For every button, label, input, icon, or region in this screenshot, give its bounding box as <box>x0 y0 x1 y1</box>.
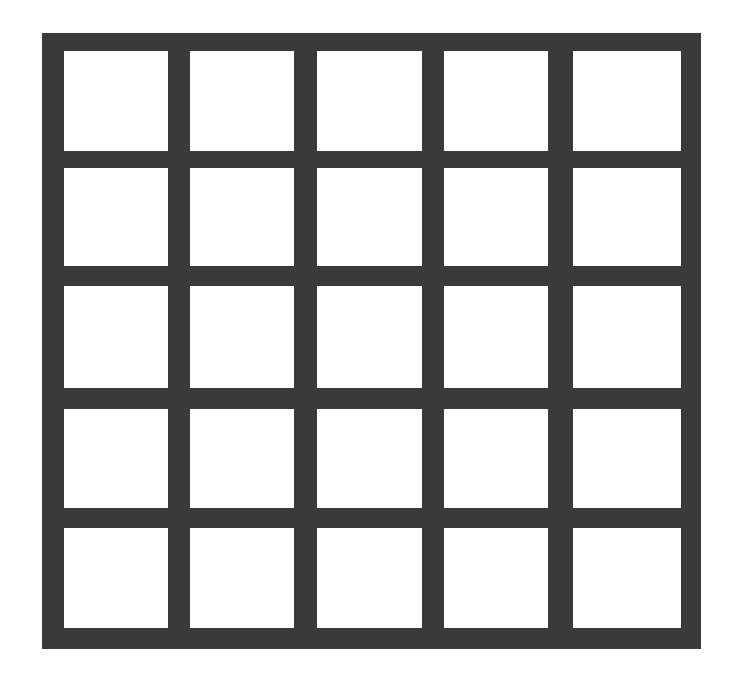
grid-cell-r4-c1 <box>64 409 168 508</box>
grid-cell-r1-c1 <box>64 51 168 151</box>
grid-cell-r5-c2 <box>190 528 294 628</box>
grid-cell-r1-c5 <box>573 51 681 151</box>
grid-cell-r5-c3 <box>317 528 422 628</box>
grid-cell-r4-c2 <box>190 409 294 508</box>
grid-cell-r3-c4 <box>444 286 548 388</box>
grid-cell-r1-c4 <box>444 51 548 151</box>
grid-cell-r3-c1 <box>64 286 168 388</box>
grid-cell-r2-c5 <box>573 168 681 266</box>
grid-cell-r4-c5 <box>573 409 681 508</box>
grid-cell-r4-c4 <box>444 409 548 508</box>
grid-cell-r4-c3 <box>317 409 422 508</box>
grid-cell-r3-c2 <box>190 286 294 388</box>
grid-cell-r2-c3 <box>317 168 422 266</box>
grid-cell-r3-c3 <box>317 286 422 388</box>
grid-cell-r1-c3 <box>317 51 422 151</box>
grid-cell-r2-c1 <box>64 168 168 266</box>
grid-cell-r3-c5 <box>573 286 681 388</box>
grid-cell-r1-c2 <box>190 51 294 151</box>
grid-cell-r2-c4 <box>444 168 548 266</box>
grid-cell-r5-c4 <box>444 528 548 628</box>
grid-cell-r5-c1 <box>64 528 168 628</box>
grid-cell-r5-c5 <box>573 528 681 628</box>
grid-cell-r2-c2 <box>190 168 294 266</box>
